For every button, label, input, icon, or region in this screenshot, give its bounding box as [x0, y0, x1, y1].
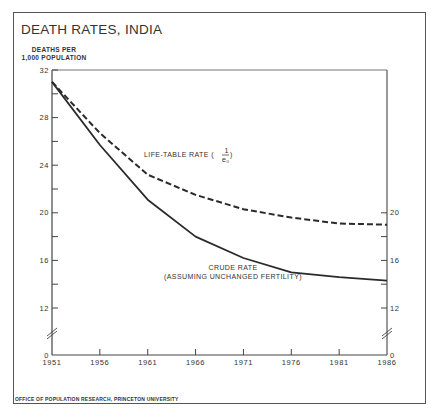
x-tick-label-1971: 1971	[234, 358, 253, 367]
x-tick-label-1961: 1961	[138, 358, 157, 367]
left-y-tick-label-32: 32	[39, 66, 49, 75]
source-note: OFFICE OF POPULATION RESEARCH, PRINCETON…	[15, 396, 179, 402]
right-y-tick-label-20: 20	[390, 208, 400, 217]
life-table-rate-label: LIFE-TABLE RATE (	[144, 151, 214, 159]
left-y-tick-label-28: 28	[39, 113, 49, 122]
right-y-tick-label-16: 16	[390, 256, 400, 265]
crude-rate-label-line-2: (ASSUMING UNCHANGED FERTILITY)	[164, 273, 302, 281]
life-table-rate-line	[52, 82, 387, 225]
left-y-tick-label-16: 16	[39, 256, 49, 265]
x-tick-label-1986: 1986	[377, 358, 396, 367]
x-tick-label-1976: 1976	[282, 358, 301, 367]
line-chart: 0121620242832012162019511956196119661971…	[0, 0, 433, 419]
x-tick-label-1951: 1951	[42, 358, 61, 367]
crude-rate-label-line-1: CRUDE RATE	[209, 264, 258, 271]
axes	[47, 70, 392, 355]
life-table-rate-fraction-denominator: e₀	[222, 156, 230, 163]
left-y-tick-label-12: 12	[39, 304, 49, 313]
x-tick-label-1981: 1981	[330, 358, 349, 367]
x-tick-label-1966: 1966	[186, 358, 205, 367]
left-y-tick-label-24: 24	[39, 161, 49, 170]
x-tick-label-1956: 1956	[90, 358, 109, 367]
life-table-rate-fraction-numerator: 1	[225, 147, 229, 154]
right-y-tick-label-12: 12	[390, 304, 400, 313]
left-y-tick-label-20: 20	[39, 208, 49, 217]
life-table-rate-label-close-paren: )	[230, 151, 233, 159]
ticks: 0121620242832012162019511956196119661971…	[39, 66, 399, 368]
series-lines	[52, 82, 387, 281]
crude-rate-line	[52, 82, 387, 281]
